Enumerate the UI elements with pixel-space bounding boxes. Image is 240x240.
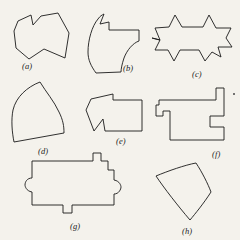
shape-d-outline [12, 82, 64, 142]
figure-label-b: (b) [123, 64, 133, 73]
figure-label-g: (g) [70, 222, 80, 231]
stray-dot-mark [233, 93, 235, 95]
figure-container: (a) (b) (c) (d) (e) (f) (g) (h) [0, 0, 240, 240]
shape-e-outline [86, 94, 142, 131]
figure-label-d: (d) [38, 147, 48, 156]
figure-label-h: (h) [182, 227, 192, 236]
shape-g-outline [25, 153, 121, 213]
shapes-canvas [0, 0, 240, 240]
shape-c-outline [152, 15, 232, 61]
shape-a-outline [14, 13, 69, 59]
shape-f-outline [156, 88, 224, 140]
figure-label-e: (e) [116, 137, 126, 146]
shape-h-outline [156, 163, 211, 220]
figure-label-a: (a) [22, 62, 32, 71]
figure-label-c: (c) [192, 70, 202, 79]
figure-label-f: (f) [212, 150, 220, 159]
